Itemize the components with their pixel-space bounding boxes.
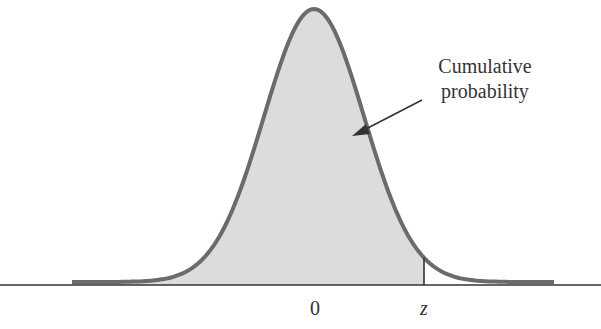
annotation-text-line2: probability: [441, 80, 529, 103]
cumulative-probability-area: [72, 9, 424, 285]
tick-label-zero: 0: [310, 297, 320, 319]
annotation-text-line1: Cumulative: [438, 55, 531, 77]
tick-label-z: z: [419, 297, 428, 319]
normal-distribution-chart: Cumulative probability 0 z: [0, 0, 601, 329]
